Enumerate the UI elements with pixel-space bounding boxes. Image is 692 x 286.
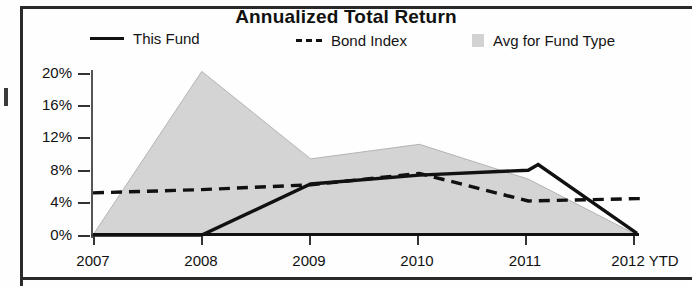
x-axis-tick-2008 (201, 236, 203, 245)
y-axis-label-2: 8% (14, 161, 72, 178)
y-axis-tick-0 (78, 235, 90, 237)
y-axis-tick-8 (78, 170, 90, 172)
legend-item-this-fund: This Fund (90, 30, 200, 47)
legend-item-bond-index: Bond Index (296, 32, 407, 49)
y-axis-label-5: 20% (14, 64, 72, 81)
dashed-line-icon (296, 39, 322, 42)
legend-label-avg-fund-type: Avg for Fund Type (493, 32, 615, 49)
x-axis-tick-2010 (417, 236, 419, 245)
solid-line-icon (90, 37, 124, 40)
x-axis-label-2010: 2010 (400, 252, 433, 269)
area-swatch-icon (472, 34, 484, 47)
chart-legend: This Fund Bond Index Avg for Fund Type (60, 30, 680, 54)
y-axis-label-3: 12% (14, 128, 72, 145)
x-axis-tick-2007 (93, 236, 95, 245)
x-axis-label-2009: 2009 (292, 252, 325, 269)
legend-label-bond-index: Bond Index (331, 32, 407, 49)
figure-border-bottom (20, 277, 692, 280)
x-axis-tick-2012 (633, 236, 635, 245)
chart-figure: Annualized Total Return This Fund Bond I… (0, 0, 692, 286)
chart-title: Annualized Total Return (0, 6, 692, 28)
legend-label-this-fund: This Fund (133, 30, 200, 47)
plot-canvas (93, 73, 637, 235)
x-axis-label-2007: 2007 (76, 252, 109, 269)
y-axis-label-4: 16% (14, 96, 72, 113)
y-axis-labels: 20% 16% 12% 8% 4% 0% (14, 0, 72, 286)
x-axis-label-2012-ytd: 2012 YTD (611, 252, 678, 269)
x-axis-tick-2011 (525, 236, 527, 245)
y-axis-tick-16 (78, 105, 90, 107)
x-axis-label-2012-text: 2012 YTD (611, 252, 678, 269)
x-axis-label-2008: 2008 (184, 252, 217, 269)
x-axis-tick-2009 (309, 236, 311, 245)
y-axis-tick-20 (78, 73, 90, 75)
y-axis-tick-12 (78, 137, 90, 139)
scan-artifact-mark (4, 88, 8, 106)
y-axis-label-1: 4% (14, 193, 72, 210)
y-axis-label-0: 0% (14, 226, 72, 243)
y-axis-tick-4 (78, 202, 90, 204)
x-axis-label-2011: 2011 (509, 252, 541, 269)
zero-baseline (93, 233, 639, 236)
legend-item-avg-fund-type: Avg for Fund Type (472, 32, 615, 49)
area-avg-for-fund-type (93, 71, 637, 235)
